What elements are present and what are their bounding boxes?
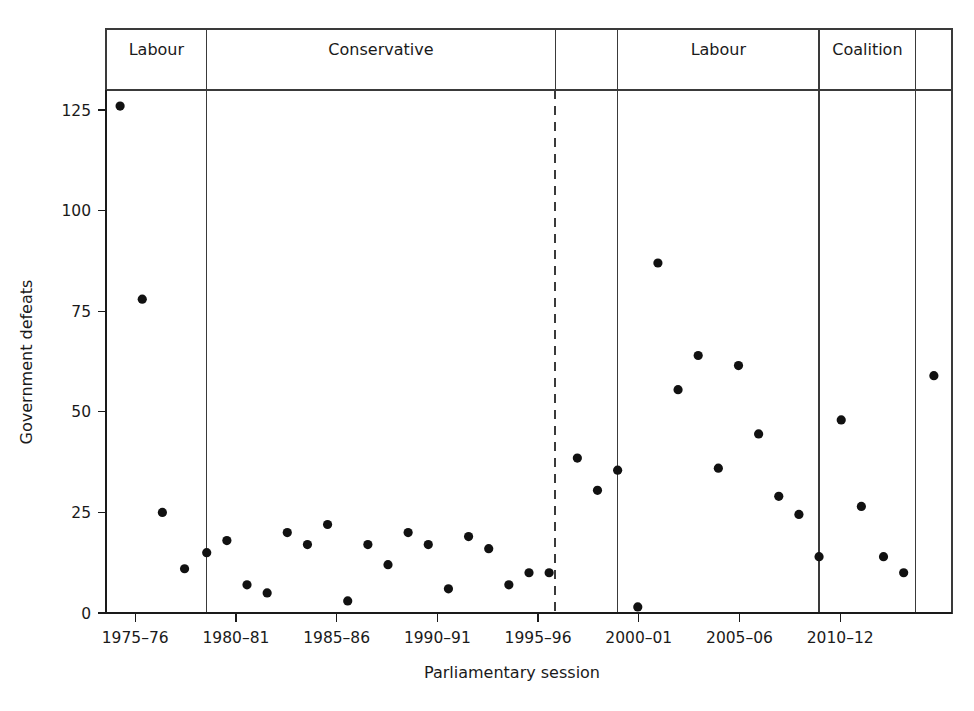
x-tick-label-5: 2000–01	[605, 629, 672, 647]
data-point-1985-86	[343, 596, 352, 605]
y-tick-label-5: 125	[61, 102, 91, 120]
data-point-2003-04	[714, 464, 723, 473]
data-point-1983-84	[303, 540, 312, 549]
x-tick-label-2: 1985–86	[303, 629, 370, 647]
y-tick-label-1: 25	[71, 504, 91, 522]
y-tick-label-2: 50	[71, 403, 91, 421]
data-point-2013-14	[899, 568, 908, 577]
data-point-group	[116, 101, 939, 611]
plot-area-border	[106, 90, 952, 613]
data-point-1991-92	[464, 532, 473, 541]
data-point-1984-85	[323, 520, 332, 529]
panel-strip-cell-0	[106, 29, 207, 90]
panel-strip-label-1: Conservative	[328, 40, 433, 59]
x-axis-title: Parliamentary session	[424, 663, 600, 682]
data-point-1986-87	[363, 540, 372, 549]
panel-strip-label-4: Coalition	[832, 40, 902, 59]
data-point-2009-10	[837, 415, 846, 424]
data-point-1981-82	[263, 588, 272, 597]
data-point-1979-80	[222, 536, 231, 545]
panel-strip-cell-2	[555, 29, 617, 90]
x-tick-label-3: 1990–91	[404, 629, 471, 647]
x-tick-label-7: 2010–12	[807, 629, 874, 647]
panel-strip-cell-3	[618, 29, 819, 90]
data-point-1996-97	[573, 454, 582, 463]
data-point-1997-98	[593, 486, 602, 495]
data-point-2010-12	[857, 502, 866, 511]
data-point-1995-96	[545, 568, 554, 577]
data-point-1987-88	[383, 560, 392, 569]
data-point-2002-03	[694, 351, 703, 360]
data-point-2004-05	[734, 361, 743, 370]
panel-strip-label-3: Labour	[691, 40, 747, 59]
data-point-1978-79	[202, 548, 211, 557]
y-axis-title: Government defeats	[17, 280, 36, 445]
data-point-1975-76	[138, 295, 147, 304]
y-tick-label-0: 0	[81, 605, 91, 623]
data-point-1980-81	[242, 580, 251, 589]
data-point-1992-93	[484, 544, 493, 553]
data-point-2008-09	[814, 552, 823, 561]
data-point-1974-75	[116, 101, 125, 110]
data-point-2006-07	[774, 492, 783, 501]
panel-strip-cell-5	[916, 29, 952, 90]
government-defeats-scatter-chart: LabourConservativeLabourCoalition 025507…	[0, 0, 974, 711]
data-point-1988-89	[404, 528, 413, 537]
data-point-2005-06	[754, 429, 763, 438]
x-tick-label-6: 2005–06	[706, 629, 773, 647]
data-point-1994-95	[524, 568, 533, 577]
data-point-2007-08	[794, 510, 803, 519]
data-point-1993-94	[504, 580, 513, 589]
x-axis-ticks: 1975–761980–811985–861990–911995–962000–…	[102, 613, 874, 647]
data-point-1999-2000	[633, 602, 642, 611]
data-point-1977-78	[180, 564, 189, 573]
chart-container: LabourConservativeLabourCoalition 025507…	[0, 0, 974, 711]
data-point-1976-77	[158, 508, 167, 517]
y-tick-label-3: 75	[71, 303, 91, 321]
y-axis-ticks: 0255075100125	[61, 102, 106, 623]
data-point-2012-13	[879, 552, 888, 561]
y-tick-label-4: 100	[61, 202, 91, 220]
data-point-2000-01	[653, 258, 662, 267]
plot-frame	[100, 90, 952, 613]
data-point-1982-83	[283, 528, 292, 537]
panel-strip-group: LabourConservativeLabourCoalition	[106, 29, 952, 90]
x-tick-label-1: 1980–81	[202, 629, 269, 647]
data-point-2014-15	[929, 371, 938, 380]
panel-strip-cell-1	[207, 29, 555, 90]
panel-strip-label-0: Labour	[129, 40, 185, 59]
x-tick-label-0: 1975–76	[102, 629, 169, 647]
data-point-1998-99	[613, 466, 622, 475]
data-point-1990-91	[444, 584, 453, 593]
data-point-2001-02	[673, 385, 682, 394]
x-tick-label-4: 1995–96	[505, 629, 572, 647]
data-point-1989-90	[424, 540, 433, 549]
panel-divider-group	[207, 90, 916, 613]
panel-strip-cell-4	[819, 29, 916, 90]
